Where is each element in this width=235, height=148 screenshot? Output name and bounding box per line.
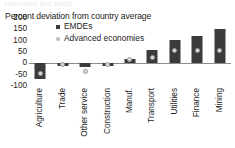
y-axis-tick-label: -50: [15, 71, 27, 79]
x-axis-category: Finance: [186, 88, 208, 146]
x-axis-category: Mining: [209, 88, 231, 146]
x-axis-tick-label: Manuf.: [126, 88, 134, 113]
x-axis-category: Other service: [74, 88, 96, 146]
x-axis-category: Transport: [141, 88, 163, 146]
y-axis-tick-label: 150: [13, 25, 27, 33]
bar-group: [29, 18, 231, 86]
x-axis-category: Construction: [96, 88, 118, 146]
y-axis-tick-label: 100: [13, 37, 27, 45]
x-axis-category: Utilities: [164, 88, 186, 146]
bar-category-column: [209, 18, 231, 86]
bar-emdes: [214, 29, 225, 63]
y-axis-tick-label: 0: [22, 59, 27, 67]
bar-category-column: [51, 18, 73, 86]
y-axis: 200150100500-50-100: [0, 17, 28, 87]
bar-category-column: [141, 18, 163, 86]
bar-category-column: [119, 18, 141, 86]
bar-category-column: [29, 18, 51, 86]
x-axis-tick-label: Transport: [148, 88, 156, 123]
x-axis-labels: AgricultureTradeOther serviceConstructio…: [29, 88, 231, 146]
bar-category-column: [186, 18, 208, 86]
bar-emdes: [80, 63, 91, 66]
bar-category-column: [96, 18, 118, 86]
cropped-text-remnant: comomics and briefs: [4, 0, 154, 7]
y-axis-tick-label: 200: [13, 14, 27, 22]
dot-advanced-economies: [217, 48, 222, 53]
y-axis-tick-label: -100: [11, 82, 27, 90]
dot-advanced-economies: [105, 62, 110, 67]
dot-advanced-economies: [195, 48, 200, 53]
x-axis-tick-label: Other service: [81, 88, 89, 137]
x-axis-category: Trade: [51, 88, 73, 146]
bar-category-column: [164, 18, 186, 86]
x-axis-tick-label: Utilities: [171, 88, 179, 114]
x-axis-tick-label: Finance: [193, 88, 201, 117]
x-axis-tick-label: Agriculture: [36, 88, 44, 127]
x-axis-tick-label: Construction: [104, 88, 112, 134]
x-axis-category: Agriculture: [29, 88, 51, 146]
chart-figure: comomics and briefs Percent deviation fr…: [0, 0, 235, 148]
bar-category-column: [74, 18, 96, 86]
dot-advanced-economies: [83, 69, 88, 74]
dot-advanced-economies: [38, 71, 43, 76]
x-axis-tick-label: Mining: [216, 88, 224, 112]
plot-area: [29, 18, 231, 86]
x-axis-category: Manuf.: [119, 88, 141, 146]
dot-advanced-economies: [60, 62, 65, 67]
y-axis-tick-label: 50: [18, 48, 27, 56]
x-axis-tick-label: Trade: [59, 88, 67, 109]
